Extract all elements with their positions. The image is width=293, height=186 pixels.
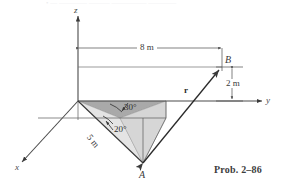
y-axis-label: y — [266, 96, 270, 105]
vector-r-label: r — [184, 86, 188, 95]
problem-figure: • — ———— ——— ————— ———— — [0, 0, 293, 186]
dimension-2m-label: 2 m — [224, 79, 242, 88]
z-axis-label: z — [74, 6, 78, 15]
x-axis-label: x — [15, 163, 19, 172]
figure-drawing — [0, 0, 293, 186]
point-a-label: A — [139, 170, 145, 180]
problem-caption: Prob. 2–86 — [214, 165, 262, 175]
x-axis-line — [22, 101, 78, 162]
angle-20-label: 20° — [114, 125, 127, 134]
angle-30-label: 30° — [124, 103, 137, 112]
point-b-label: B — [225, 55, 231, 65]
dimension-8m — [78, 18, 222, 94]
dimension-8m-label: 8 m — [137, 43, 157, 52]
